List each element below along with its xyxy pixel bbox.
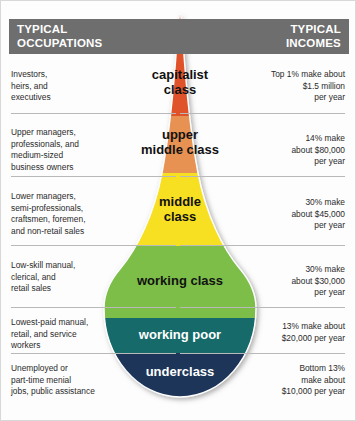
divider-right-3 bbox=[180, 245, 345, 246]
divider-right-1 bbox=[180, 113, 345, 114]
class-label-working-poor: working poor bbox=[80, 327, 280, 342]
class-label-underclass: underclass bbox=[80, 364, 280, 379]
divider-right-2 bbox=[180, 176, 345, 177]
header-occupations-line2: OCCUPATIONS bbox=[17, 37, 102, 51]
divider-left-4 bbox=[11, 307, 176, 308]
class-label-upper-middle-class: upper middle class bbox=[80, 127, 280, 157]
class-label-working-class: working class bbox=[80, 273, 280, 288]
infographic-root: TYPICAL OCCUPATIONS TYPICAL INCOMES Inve… bbox=[0, 0, 356, 421]
divider-left-1 bbox=[11, 113, 176, 114]
divider-right-4 bbox=[180, 307, 345, 308]
header-typical-occupations: TYPICAL OCCUPATIONS bbox=[17, 23, 102, 50]
divider-left-2 bbox=[11, 176, 176, 177]
divider-left-5 bbox=[11, 353, 176, 354]
class-label-capitalist-class: capitalist class bbox=[80, 67, 280, 97]
header-typical-incomes: TYPICAL INCOMES bbox=[286, 23, 341, 50]
header-occupations-line1: TYPICAL bbox=[17, 23, 102, 37]
header-incomes-line1: TYPICAL bbox=[286, 23, 341, 37]
divider-left-3 bbox=[11, 245, 176, 246]
header-incomes-line2: INCOMES bbox=[286, 37, 341, 51]
divider-right-5 bbox=[180, 353, 345, 354]
class-label-middle-class: middle class bbox=[80, 194, 280, 224]
column-header-bar: TYPICAL OCCUPATIONS TYPICAL INCOMES bbox=[9, 19, 349, 54]
